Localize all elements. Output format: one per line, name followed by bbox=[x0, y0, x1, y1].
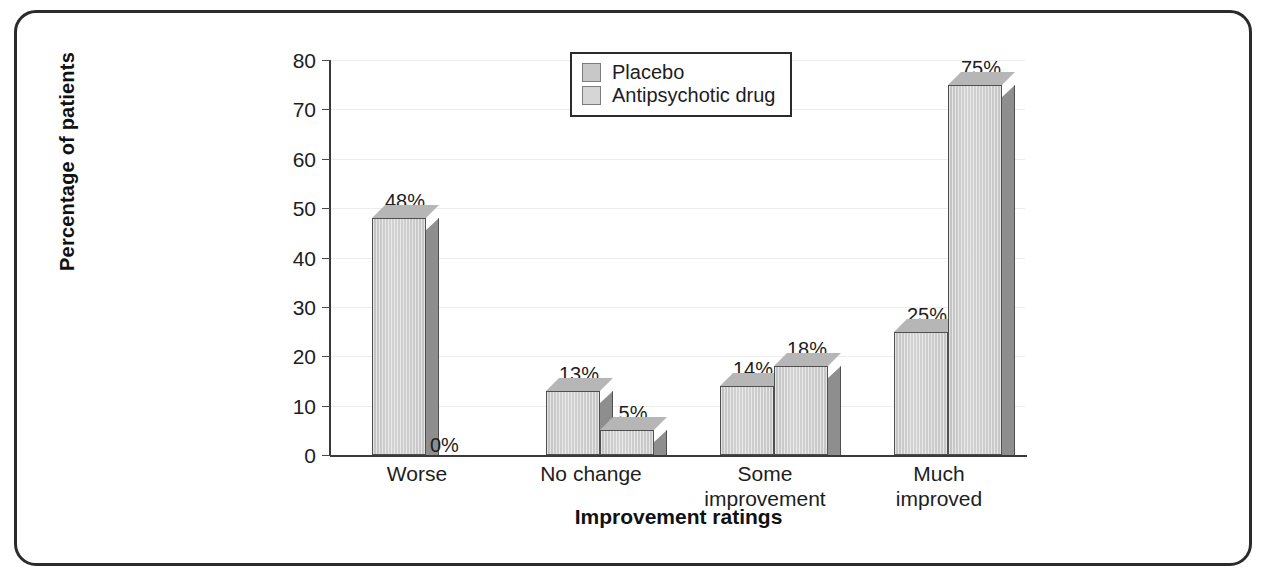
y-tick-mark-80 bbox=[322, 60, 330, 61]
y-axis-title: Percentage of patients bbox=[56, 32, 79, 292]
bar-front-face bbox=[600, 430, 654, 455]
plot-area: 48% 0% 13% 5% 14% bbox=[330, 60, 1025, 455]
y-tick-mark-70 bbox=[322, 109, 330, 110]
bar-side-face bbox=[827, 366, 841, 455]
bar-someimprovement-placebo: 14% bbox=[720, 386, 774, 455]
y-tick-label-10: 10 bbox=[276, 396, 316, 417]
bar-front-face bbox=[372, 218, 426, 455]
x-category-label-worse: Worse bbox=[330, 462, 504, 487]
gridline-60 bbox=[330, 159, 1025, 160]
legend-entry-antipsychotic-drug: Antipsychotic drug bbox=[582, 84, 780, 107]
bar-nochange-placebo: 13% bbox=[546, 391, 600, 455]
x-category-label-line1: Some bbox=[678, 462, 852, 487]
bar-value-label: 0% bbox=[430, 434, 500, 457]
y-tick-mark-40 bbox=[322, 258, 330, 259]
bar-side-face bbox=[425, 218, 439, 455]
x-axis-title: Improvement ratings bbox=[330, 505, 1027, 529]
legend-label: Antipsychotic drug bbox=[612, 84, 775, 107]
y-tick-label-30: 30 bbox=[276, 297, 316, 318]
x-category-label-line1: No change bbox=[504, 462, 678, 487]
y-tick-mark-20 bbox=[322, 356, 330, 357]
y-tick-mark-60 bbox=[322, 159, 330, 160]
chart-legend: Placebo Antipsychotic drug bbox=[570, 52, 792, 117]
chart-figure: 48% 0% 13% 5% 14% bbox=[0, 0, 1272, 584]
y-tick-label-40: 40 bbox=[276, 248, 316, 269]
y-tick-mark-30 bbox=[322, 307, 330, 308]
legend-label: Placebo bbox=[612, 61, 684, 84]
bar-front-face bbox=[948, 85, 1002, 455]
bar-side-face bbox=[1001, 85, 1015, 455]
x-category-label-line1: Worse bbox=[330, 462, 504, 487]
legend-swatch-icon bbox=[582, 63, 601, 82]
x-axis-line bbox=[330, 455, 1027, 457]
bar-front-face bbox=[720, 386, 774, 455]
x-category-label-no-change: No change bbox=[504, 462, 678, 487]
y-tick-label-50: 50 bbox=[276, 198, 316, 219]
y-tick-mark-10 bbox=[322, 406, 330, 407]
y-tick-label-20: 20 bbox=[276, 346, 316, 367]
legend-entry-placebo: Placebo bbox=[582, 61, 780, 84]
bar-muchimproved-antipsychotic: 75% bbox=[948, 85, 1002, 455]
bar-someimprovement-antipsychotic: 18% bbox=[774, 366, 828, 455]
y-axis-tick-labels: 80 70 60 50 40 30 20 10 0 bbox=[272, 0, 316, 584]
bar-front-face bbox=[774, 366, 828, 455]
y-tick-label-0: 0 bbox=[276, 445, 316, 466]
bar-nochange-antipsychotic: 5% bbox=[600, 430, 654, 455]
bar-side-face bbox=[653, 430, 667, 455]
x-category-label-line1: Much bbox=[852, 462, 1026, 487]
y-tick-mark-50 bbox=[322, 208, 330, 209]
y-tick-label-60: 60 bbox=[276, 149, 316, 170]
y-tick-label-80: 80 bbox=[276, 50, 316, 71]
bar-front-face bbox=[546, 391, 600, 455]
y-tick-mark-0 bbox=[322, 455, 330, 456]
bar-worse-placebo: 48% bbox=[372, 218, 426, 455]
legend-swatch-icon bbox=[582, 86, 601, 105]
y-tick-label-70: 70 bbox=[276, 99, 316, 120]
bar-front-face bbox=[894, 332, 948, 455]
bar-muchimproved-placebo: 25% bbox=[894, 332, 948, 455]
